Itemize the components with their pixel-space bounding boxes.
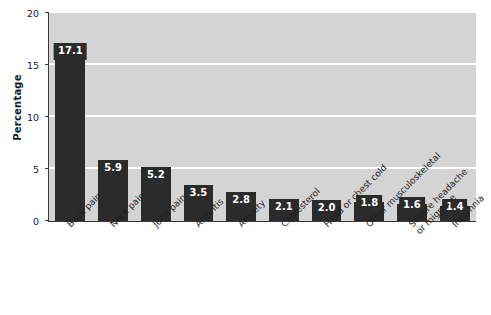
bar-group[interactable]: 2.8 [226,13,256,221]
y-axis-title: Percentage [12,53,23,163]
x-axis-labels: Back painNeck painJoint painArthritisAnx… [48,222,475,315]
bar-group[interactable]: 3.5 [184,13,214,221]
bar-value-label: 5.9 [100,160,126,177]
bar-group[interactable]: 2.1 [269,13,299,221]
y-tick-label: 10 [27,112,39,123]
bar-value-label: 17.1 [54,43,87,60]
y-tick-label: 15 [27,60,39,71]
bar-group[interactable]: 5.2 [141,13,171,221]
bar-value-label: 3.5 [186,185,212,202]
y-tick-label: 0 [33,216,39,227]
bar[interactable] [55,43,85,221]
bar-value-label: 5.2 [143,167,169,184]
bar-chart: Percentage 05101520 17.15.95.23.52.82.12… [0,0,491,315]
y-tick-label: 20 [27,8,39,19]
y-tick-label: 5 [33,164,39,175]
bar-group[interactable]: 17.1 [55,13,85,221]
bar-group[interactable]: 5.9 [98,13,128,221]
bars-container: 17.15.95.23.52.82.12.01.81.61.4 [49,13,476,221]
plot-area: 05101520 17.15.95.23.52.82.12.01.81.61.4 [48,13,476,222]
